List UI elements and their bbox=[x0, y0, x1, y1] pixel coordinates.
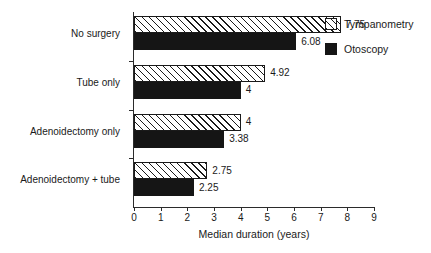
bar-otoscopy bbox=[134, 82, 241, 99]
x-axis-tick-label: 4 bbox=[231, 212, 251, 223]
legend-label: Tympanometry bbox=[344, 18, 413, 30]
x-axis-tick bbox=[267, 207, 268, 211]
x-axis-tick-label: 7 bbox=[311, 212, 331, 223]
x-axis-tick-label: 9 bbox=[364, 212, 384, 223]
bar-value-label: 4 bbox=[246, 84, 252, 95]
bar-value-label: 6.08 bbox=[301, 36, 320, 47]
legend-label: Otoscopy bbox=[344, 43, 388, 55]
bar-tympanometry bbox=[134, 16, 341, 33]
x-axis-title: Median duration (years) bbox=[134, 228, 374, 240]
bar-value-label: 4 bbox=[246, 116, 252, 127]
y-axis-tick bbox=[129, 158, 134, 159]
y-axis-tick bbox=[129, 110, 134, 111]
bar-value-label: 2.75 bbox=[212, 165, 231, 176]
bar-tympanometry bbox=[134, 162, 207, 179]
x-axis-line bbox=[133, 207, 374, 208]
legend-item-tympanometry: Tympanometry bbox=[325, 17, 429, 30]
y-axis-category-label: No surgery bbox=[71, 28, 120, 39]
legend-item-otoscopy: Otoscopy bbox=[325, 42, 429, 55]
x-axis-tick bbox=[294, 207, 295, 211]
x-axis-tick bbox=[374, 207, 375, 211]
x-axis-tick-label: 8 bbox=[337, 212, 357, 223]
x-axis-tick bbox=[187, 207, 188, 211]
y-axis-category-label: Adenoidectomy + tube bbox=[20, 174, 120, 185]
chart-figure: No surgeryTube onlyAdenoidectomy onlyAde… bbox=[0, 0, 431, 253]
x-axis-tick-label: 2 bbox=[177, 212, 197, 223]
y-axis-category-labels: No surgeryTube onlyAdenoidectomy onlyAde… bbox=[0, 0, 128, 207]
solid-swatch-icon bbox=[325, 43, 337, 55]
bar-otoscopy bbox=[134, 33, 296, 50]
bar-tympanometry bbox=[134, 65, 265, 82]
bar-tympanometry bbox=[134, 114, 241, 131]
x-axis-tick bbox=[321, 207, 322, 211]
bar-value-label: 3.38 bbox=[229, 133, 248, 144]
y-axis-tick bbox=[129, 61, 134, 62]
x-axis-tick bbox=[134, 207, 135, 211]
chart-legend: Tympanometry Otoscopy bbox=[325, 17, 429, 67]
y-axis-category-label: Tube only bbox=[76, 77, 120, 88]
x-axis-tick-label: 0 bbox=[124, 212, 144, 223]
x-axis-tick bbox=[347, 207, 348, 211]
x-axis-tick-label: 3 bbox=[204, 212, 224, 223]
x-axis-tick-label: 1 bbox=[151, 212, 171, 223]
bar-value-label: 4.92 bbox=[270, 67, 289, 78]
bar-value-label: 2.25 bbox=[199, 182, 218, 193]
x-axis-tick bbox=[241, 207, 242, 211]
x-axis-tick bbox=[214, 207, 215, 211]
hatched-swatch-icon bbox=[325, 18, 337, 30]
bar-otoscopy bbox=[134, 179, 194, 196]
x-axis-tick-label: 6 bbox=[284, 212, 304, 223]
x-axis-tick bbox=[161, 207, 162, 211]
x-axis-tick-label: 5 bbox=[257, 212, 277, 223]
y-axis-category-label: Adenoidectomy only bbox=[30, 126, 120, 137]
bar-otoscopy bbox=[134, 131, 224, 148]
